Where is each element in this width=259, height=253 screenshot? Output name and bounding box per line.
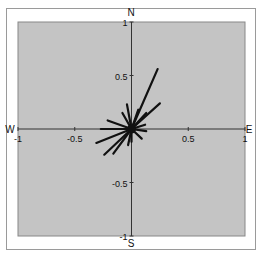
y-tick-label: 1 bbox=[122, 18, 127, 28]
east-label: E bbox=[246, 124, 253, 135]
x-tick-label: -1 bbox=[14, 134, 22, 144]
west-label: W bbox=[5, 124, 15, 135]
x-tick-label: 0.5 bbox=[182, 134, 195, 144]
south-label: S bbox=[128, 238, 135, 249]
wind-vector-chart: -1-0.50.5110.5-0.5-1 N S E W bbox=[0, 0, 259, 253]
origin-hub bbox=[127, 125, 136, 134]
y-tick-label: 0.5 bbox=[115, 72, 128, 82]
y-tick-label: -1 bbox=[119, 232, 127, 242]
x-tick-label: 1 bbox=[242, 134, 247, 144]
y-tick-label: -0.5 bbox=[112, 179, 128, 189]
north-label: N bbox=[127, 7, 134, 18]
x-tick-label: -0.5 bbox=[67, 134, 83, 144]
